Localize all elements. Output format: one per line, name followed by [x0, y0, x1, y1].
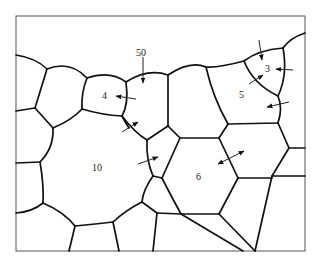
label-50: 50	[136, 47, 146, 58]
arrow-3-lowerleft	[249, 75, 263, 84]
label-10: 10	[92, 162, 102, 173]
label-4: 4	[102, 90, 107, 101]
arrow-3-right	[276, 69, 293, 70]
arrow-3-top	[259, 40, 262, 60]
arrow-5	[267, 102, 289, 107]
grain-structure-diagram: 50 4 3 5 10 6	[0, 0, 320, 269]
label-5: 5	[239, 89, 244, 100]
label-3: 3	[265, 63, 270, 74]
label-6: 6	[196, 171, 201, 182]
grain-boundaries	[16, 33, 305, 251]
migration-arrows	[116, 40, 293, 164]
